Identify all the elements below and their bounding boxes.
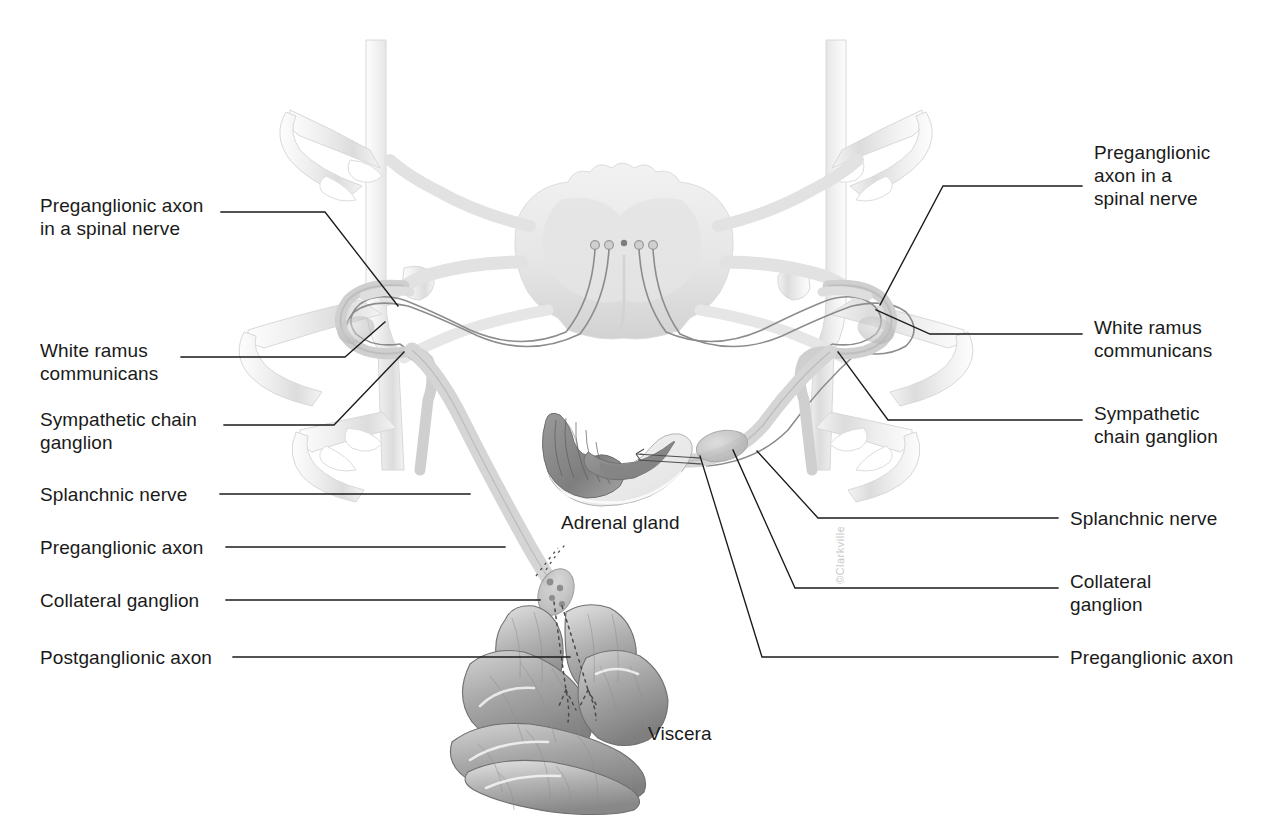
- label-postganglionic-axon-left: Postganglionic axon: [40, 646, 212, 669]
- label-sympathetic-chain-ganglion-left: Sympathetic chain ganglion: [40, 408, 197, 454]
- label-white-ramus-communicans-right: White ramus communicans: [1094, 316, 1212, 362]
- label-preganglionic-axon-spinal-nerve-left: Preganglionic axon in a spinal nerve: [40, 194, 203, 240]
- label-splanchnic-nerve-left: Splanchnic nerve: [40, 483, 187, 506]
- label-white-ramus-communicans-left: White ramus communicans: [40, 339, 158, 385]
- viscera: [450, 605, 668, 815]
- label-sympathetic-chain-ganglion-right: Sympathetic chain ganglion: [1094, 402, 1218, 448]
- copyright-watermark: ©Clarkville: [834, 526, 846, 584]
- spinal-cord: [386, 160, 862, 358]
- label-preganglionic-axon-right: Preganglionic axon: [1070, 646, 1233, 669]
- label-collateral-ganglion-left: Collateral ganglion: [40, 589, 199, 612]
- adrenal-gland: [542, 413, 692, 506]
- figure-canvas: ©Clarkville Preganglionic axon in a spin…: [0, 0, 1264, 817]
- label-preganglionic-axon-spinal-nerve-right: Preganglionic axon in a spinal nerve: [1094, 141, 1210, 210]
- label-viscera: Viscera: [648, 722, 712, 745]
- label-adrenal-gland: Adrenal gland: [561, 511, 680, 534]
- label-collateral-ganglion-right: Collateral ganglion: [1070, 570, 1151, 616]
- vertebra-left: [239, 40, 434, 502]
- label-splanchnic-nerve-right: Splanchnic nerve: [1070, 507, 1217, 530]
- label-preganglionic-axon-left: Preganglionic axon: [40, 536, 203, 559]
